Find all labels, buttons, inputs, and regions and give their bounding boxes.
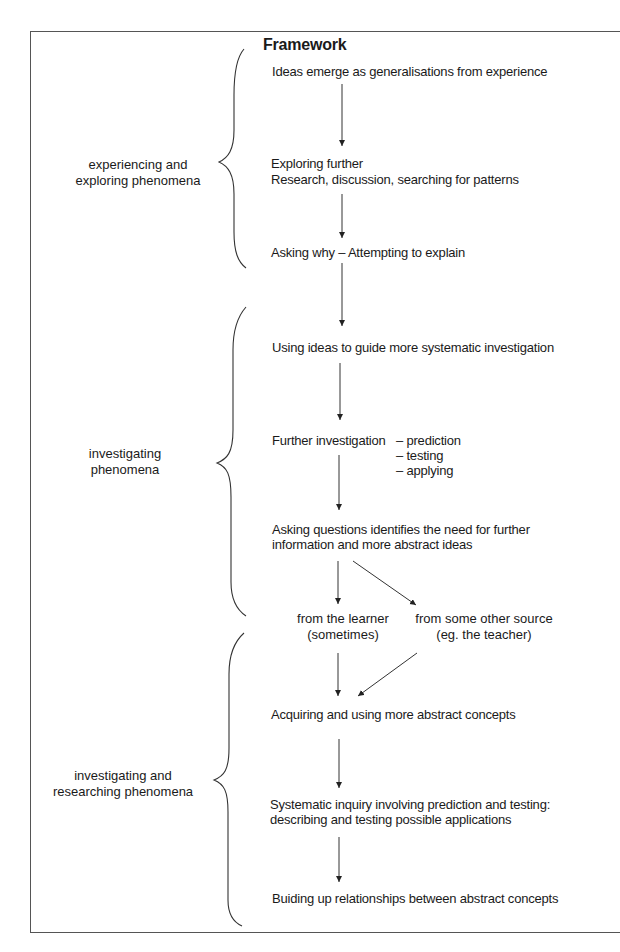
source-line: from some other source (404, 611, 564, 627)
step-asking-questions-line1: Asking questions identifies the need for… (272, 522, 530, 538)
step-exploring-further: Exploring further (271, 156, 363, 172)
step-acquiring: Acquiring and using more abstract concep… (271, 707, 516, 723)
brace-researching (214, 633, 244, 926)
step-building: Buiding up relationships between abstrac… (272, 891, 558, 907)
phase-label-line: exploring phenomena (53, 173, 223, 189)
brace-experiencing (219, 49, 246, 268)
framework-diagram: Framework experiencing and exploring phe… (0, 0, 620, 952)
phase-label-line: phenomena (40, 462, 210, 478)
source-line: from the learner (282, 611, 404, 627)
phase-label-investigating: investigating phenomena (40, 446, 210, 478)
source-from-other: from some other source (eg. the teacher) (404, 611, 564, 643)
step-exploring-detail: Research, discussion, searching for patt… (271, 172, 519, 188)
diagram-title: Framework (263, 36, 347, 54)
phase-label-experiencing: experiencing and exploring phenomena (53, 157, 223, 189)
phase-label-line: investigating and (38, 768, 208, 784)
source-from-learner: from the learner (sometimes) (282, 611, 404, 643)
sub-step-testing: – testing (396, 448, 443, 464)
step-asking-why: Asking why – Attempting to explain (271, 245, 465, 261)
phase-label-line: experiencing and (53, 157, 223, 173)
arrow-other-source-to-acquiring (358, 653, 417, 696)
source-line: (sometimes) (282, 627, 404, 643)
brace-investigating (217, 307, 246, 616)
step-using-ideas: Using ideas to guide more systematic inv… (272, 340, 554, 356)
step-asking-questions-line2: information and more abstract ideas (272, 537, 472, 553)
phase-label-line: researching phenomena (38, 784, 208, 800)
sub-step-applying: – applying (396, 463, 453, 479)
arrow-questions-to-other-source (353, 561, 416, 605)
source-line: (eg. the teacher) (404, 627, 564, 643)
step-further-investigation: Further investigation (272, 433, 386, 449)
phase-label-line: investigating (40, 446, 210, 462)
step-ideas-emerge: Ideas emerge as generalisations from exp… (272, 64, 547, 80)
step-systematic-line2: describing and testing possible applicat… (270, 812, 511, 828)
phase-label-researching: investigating and researching phenomena (38, 768, 208, 800)
sub-step-prediction: – prediction (396, 433, 461, 449)
step-systematic-line1: Systematic inquiry involving prediction … (270, 797, 550, 813)
